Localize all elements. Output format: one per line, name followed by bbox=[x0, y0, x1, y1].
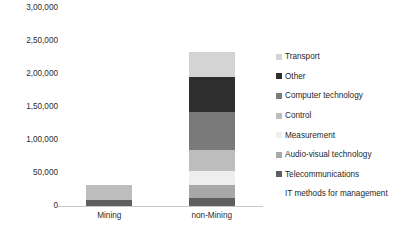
x-axis-line bbox=[58, 206, 263, 207]
bar-segment[interactable] bbox=[189, 77, 235, 113]
bar-segment[interactable] bbox=[189, 150, 235, 171]
legend-item[interactable]: Telecommunications bbox=[276, 165, 411, 185]
legend-swatch-icon bbox=[276, 73, 282, 79]
legend-item-label: Measurement bbox=[285, 131, 335, 140]
legend-item[interactable]: Transport bbox=[276, 47, 411, 67]
y-axis-tick-label: 1,50,000 bbox=[0, 103, 58, 111]
legend-item[interactable]: IT methods for management bbox=[276, 184, 411, 204]
bar-segment[interactable] bbox=[189, 52, 235, 77]
legend-item[interactable]: Computer technology bbox=[276, 86, 411, 106]
plot-area bbox=[58, 8, 263, 207]
bar-segment[interactable] bbox=[189, 185, 235, 198]
chart-legend: TransportOtherComputer technologyControl… bbox=[276, 47, 411, 204]
legend-item[interactable]: Other bbox=[276, 67, 411, 87]
legend-item-label: Control bbox=[285, 111, 311, 120]
y-axis-tick-label: 2,00,000 bbox=[0, 70, 58, 78]
legend-item-label: Computer technology bbox=[285, 91, 363, 100]
legend-swatch-icon bbox=[276, 54, 282, 60]
legend-swatch-icon bbox=[276, 132, 282, 138]
legend-swatch-icon bbox=[276, 191, 282, 197]
legend-swatch-icon bbox=[276, 171, 282, 177]
y-axis-tick-label: 3,00,000 bbox=[0, 4, 58, 12]
y-axis-tick-label: 50,000 bbox=[0, 169, 58, 177]
bar-mining[interactable] bbox=[86, 185, 132, 206]
legend-item[interactable]: Audio-visual technology bbox=[276, 145, 411, 165]
legend-item[interactable]: Measurement bbox=[276, 125, 411, 145]
legend-swatch-icon bbox=[276, 152, 282, 158]
legend-item-label: Transport bbox=[285, 52, 320, 61]
y-axis-tick-label: 1,00,000 bbox=[0, 136, 58, 144]
legend-item-label: Other bbox=[285, 72, 305, 81]
legend-item-label: IT methods for management bbox=[285, 189, 388, 198]
bar-segment[interactable] bbox=[86, 200, 132, 206]
bar-segment[interactable] bbox=[189, 171, 235, 185]
stacked-bar-chart: 3,00,0002,50,0002,00,0001,50,0001,00,000… bbox=[0, 0, 411, 231]
y-axis: 3,00,0002,50,0002,00,0001,50,0001,00,000… bbox=[0, 0, 58, 231]
legend-swatch-icon bbox=[276, 93, 282, 99]
bar-segment[interactable] bbox=[189, 112, 235, 150]
bar-non-mining[interactable] bbox=[189, 52, 235, 206]
legend-item[interactable]: Control bbox=[276, 106, 411, 126]
legend-swatch-icon bbox=[276, 113, 282, 119]
y-axis-line bbox=[58, 8, 59, 207]
y-axis-tick-label: 2,50,000 bbox=[0, 37, 58, 45]
y-axis-tick-label: 0 bbox=[0, 202, 58, 210]
bar-segment[interactable] bbox=[86, 185, 132, 200]
bar-segment[interactable] bbox=[189, 198, 235, 206]
x-axis-tick-label: non-Mining bbox=[162, 211, 262, 220]
x-axis-tick-label: Mining bbox=[59, 211, 159, 220]
legend-item-label: Telecommunications bbox=[285, 170, 359, 179]
legend-item-label: Audio-visual technology bbox=[285, 150, 371, 159]
